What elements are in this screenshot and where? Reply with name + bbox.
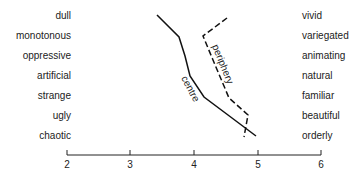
x-axis xyxy=(67,150,321,155)
periphery-label: periphery xyxy=(210,43,236,86)
tick-4: 4 xyxy=(191,159,197,170)
centre-line xyxy=(157,15,256,136)
tick-3: 3 xyxy=(127,159,133,170)
chart-plot: 2 3 4 5 6 centre periphery xyxy=(0,0,363,177)
tick-2: 2 xyxy=(64,159,70,170)
tick-5: 5 xyxy=(255,159,261,170)
tick-6: 6 xyxy=(318,159,324,170)
